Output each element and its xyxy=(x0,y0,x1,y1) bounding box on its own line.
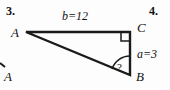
right-angle-marker-icon xyxy=(121,32,130,41)
vertex-label-b: B xyxy=(136,70,144,83)
vertex-label-a: A xyxy=(11,26,19,39)
side-label-a: a=3 xyxy=(137,48,157,60)
neighbor-figure-vertex-label: A xyxy=(4,70,12,83)
triangle-outline xyxy=(26,32,130,75)
unknown-angle-label: ? xyxy=(117,62,122,73)
vertex-label-c: C xyxy=(137,21,146,34)
geometry-figure: 3. 4. A B C b=12 a=3 ? A xyxy=(0,0,170,90)
side-label-b: b=12 xyxy=(62,10,88,22)
problem-number-4: 4. xyxy=(149,5,158,17)
neighbor-figure-edge xyxy=(0,63,5,67)
problem-number-3: 3. xyxy=(6,5,15,17)
